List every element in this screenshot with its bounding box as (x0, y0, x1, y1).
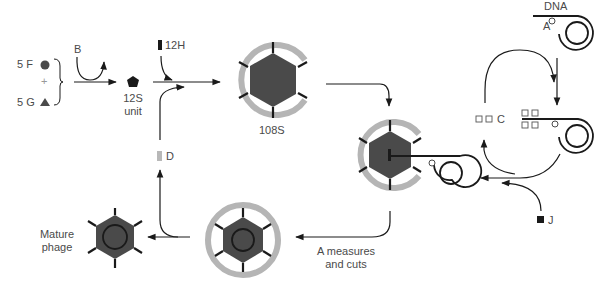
f-protein-icon (41, 61, 50, 70)
h-protein-label: 12H (165, 39, 185, 52)
j-join-arrow (502, 183, 541, 211)
j-protein-label: J (548, 214, 554, 227)
mature-phage-label: Mature phage (34, 228, 80, 254)
unit-12s-line1: 12S (123, 92, 143, 104)
dna-label: DNA (544, 0, 567, 13)
b-protein-label: B (74, 43, 81, 56)
unit-12s-pentagon-icon (127, 76, 139, 87)
mature-line2: phage (42, 241, 73, 253)
a-measures-line1: A measures (317, 245, 375, 257)
c-protein-label: C (497, 113, 505, 126)
a-cuts-arrow (296, 211, 390, 237)
h-join-arrow (161, 56, 172, 80)
assembly-pathway-diagram (0, 0, 610, 288)
arrow-to-packaging (326, 84, 389, 106)
unit-12s-label: 12S unit (118, 92, 148, 118)
c-loop-arrow (485, 50, 554, 103)
plus-sign: + (41, 75, 47, 88)
d-protein-icon (157, 151, 162, 161)
b-protein-loop-arrow (77, 57, 104, 80)
a-measures-line2: and cuts (325, 258, 367, 270)
dna-with-a (533, 16, 593, 50)
c-recycle-arrow (484, 140, 515, 174)
a-measures-label: A measures and cuts (308, 245, 384, 271)
mature-phage (88, 208, 142, 268)
dna-with-c (522, 110, 593, 153)
d-protein-label: D (166, 150, 174, 163)
d-join-arrow (160, 87, 184, 140)
filled-prohead (208, 205, 278, 275)
j-protein-icon (537, 216, 544, 223)
c-protein-icon (476, 116, 492, 122)
g-protein-icon (40, 98, 50, 106)
unit-12s-line2: unit (124, 105, 142, 117)
mature-to-d-arrow (160, 170, 178, 237)
particle-108s (239, 42, 307, 118)
particle-108s-label: 108S (259, 124, 285, 137)
a-protein-icon (429, 160, 435, 166)
f-protein-label: 5 F (17, 58, 33, 71)
packaging-particle (359, 120, 481, 190)
brace (54, 59, 63, 105)
h-protein-icon (158, 40, 162, 50)
a-protein-label: A (543, 20, 550, 33)
mature-line1: Mature (40, 228, 74, 240)
g-protein-label: 5 G (17, 96, 35, 109)
